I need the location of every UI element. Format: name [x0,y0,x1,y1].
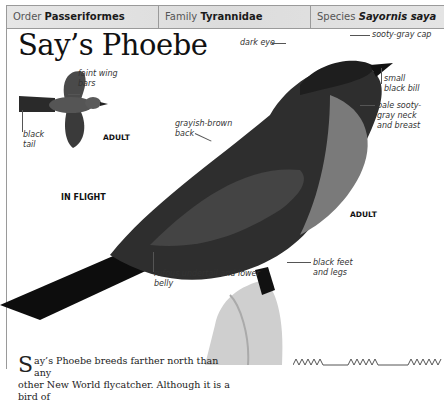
drop-cap: S [18,355,33,375]
leader-line [360,105,375,106]
species-cell: Species Sayornis saya [311,6,444,28]
body-line-1: ay’s Phoebe breeds farther north than an… [34,355,218,378]
family-value: Tyrannidae [200,11,262,22]
family-label: Family [165,11,197,22]
leader-line [153,252,154,272]
taxonomy-header: Order Passeriformes Family Tyrannidae Sp… [6,5,444,29]
body-text: S ay’s Phoebe breeds farther north than … [18,355,238,403]
order-value: Passeriformes [45,11,125,22]
leader-line [350,35,370,36]
order-label: Order [13,11,41,22]
species-value: Sayornis saya [359,11,437,22]
body-line-2: other New World flycatcher. Although it … [18,379,230,402]
annotation-grayish-brown-back: grayish-brown back [175,119,235,139]
annotation-pale-neck-breast: pale sooty-gray neck and breast [377,101,427,131]
order-cell: Order Passeriformes [7,6,159,28]
sonogram-icon [293,357,443,369]
annotation-rufous-undertail: rufous undertail and lower belly [154,269,264,289]
species-label: Species [317,11,356,22]
leader-line [381,68,382,84]
annotation-small-black-bill: small black bill [384,74,429,94]
family-cell: Family Tyrannidae [159,6,311,28]
leader-line [272,43,286,44]
main-age-label: ADULT [350,210,377,219]
leader-line [287,262,311,263]
annotation-black-feet-legs: black feet and legs [313,258,363,278]
annotation-sooty-gray-cap: sooty-gray cap [372,30,442,40]
